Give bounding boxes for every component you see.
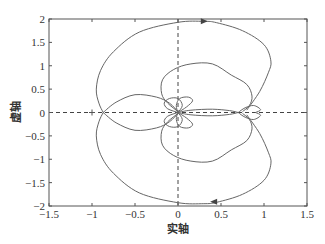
- y-axis-label: 虚轴: [9, 101, 23, 123]
- y-tick-label: 0.5: [31, 83, 45, 95]
- y-tick-label: 1: [40, 60, 46, 72]
- y-tick-label: 0: [40, 107, 46, 119]
- y-tick-label: −0.5: [25, 130, 45, 142]
- x-tick-label: 1.5: [300, 208, 314, 220]
- nyquist-chart: −1.5−1−0.500.511.5−2−1.5−1−0.500.511.52 …: [0, 0, 325, 244]
- x-tick-label: −0.5: [125, 208, 145, 220]
- x-axis-label: 实轴: [167, 222, 189, 236]
- y-tick-label: −2: [33, 200, 45, 212]
- y-tick-label: 1.5: [31, 36, 45, 48]
- x-tick-label: 0.5: [214, 208, 228, 220]
- y-tick-label: −1: [33, 153, 45, 165]
- x-tick-label: 1: [261, 208, 267, 220]
- x-tick-label: −1: [86, 208, 98, 220]
- y-tick-label: −1.5: [25, 177, 45, 189]
- y-tick-label: 2: [40, 13, 46, 25]
- x-tick-label: 0: [175, 208, 181, 220]
